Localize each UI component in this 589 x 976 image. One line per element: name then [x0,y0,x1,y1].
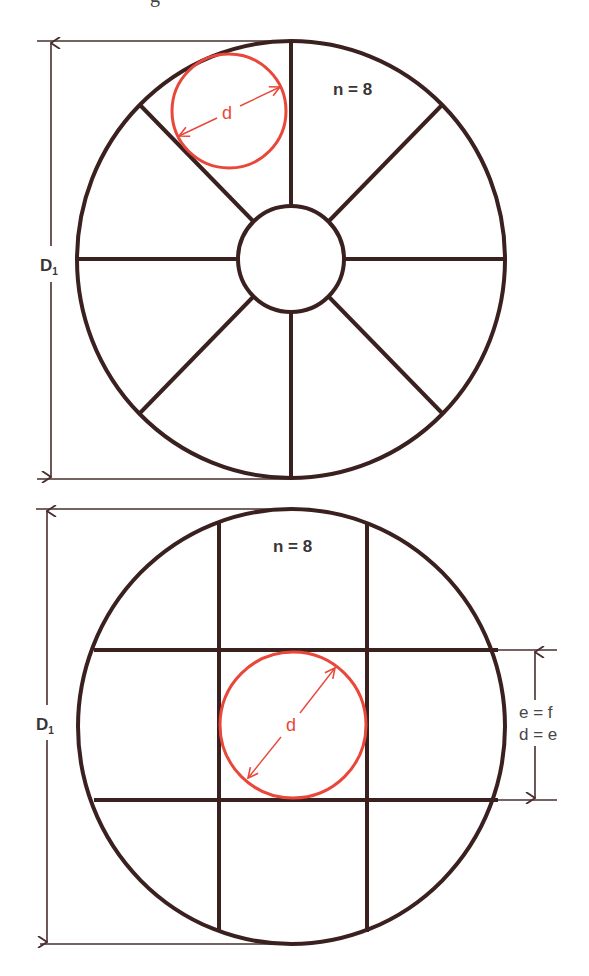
diameter-label: D1 [36,715,54,736]
caption-fragment: g [150,0,160,7]
spoke-ne [329,105,442,221]
spoke-se [329,297,442,413]
radial-diagram: D1 d n = 8 [37,41,505,479]
spokes [77,41,505,478]
d-label: d [222,103,232,123]
n-label: n = 8 [273,537,312,556]
spoke-sw [140,297,253,413]
e-equals-f-label: e = f [519,703,553,722]
d-arrow-upper [300,668,335,713]
d-label: d [286,715,296,735]
d-arrow-right [240,87,280,106]
d-equals-e-label: d = e [519,725,557,744]
caption-text: g [150,0,160,7]
n-label: n = 8 [333,80,372,99]
grid-diagram: D1 e = f d = e d n = 8 [36,509,557,944]
spoke-nw [140,105,253,221]
d-arrow-left [179,118,217,136]
diagram-canvas: g D1 d n = 8 [0,0,589,976]
d-arrow-lower [248,737,281,778]
inner-circle [238,206,344,312]
diameter-label: D1 [40,256,58,277]
